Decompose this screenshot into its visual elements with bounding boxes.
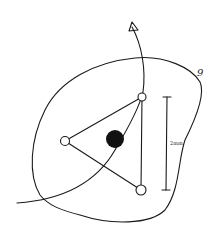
scale-bar xyxy=(166,97,167,190)
center-dot xyxy=(106,130,124,148)
sketch-diagram: 2mm 9 xyxy=(0,0,214,238)
bottom-right-node xyxy=(136,185,146,195)
left-node xyxy=(61,137,70,146)
top-right-node xyxy=(138,93,146,101)
scale-bar-label: 2mm xyxy=(170,140,183,146)
edge-topright-bottomright xyxy=(141,97,142,190)
outline-label: 9 xyxy=(197,67,204,78)
trajectory-curve xyxy=(17,27,144,203)
edge-left-topright xyxy=(65,97,142,141)
edge-left-bottomright xyxy=(65,141,141,190)
